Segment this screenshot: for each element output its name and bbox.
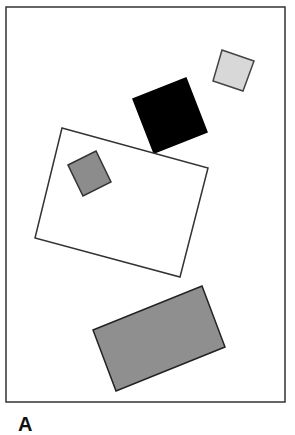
figure-label: A (18, 414, 32, 434)
